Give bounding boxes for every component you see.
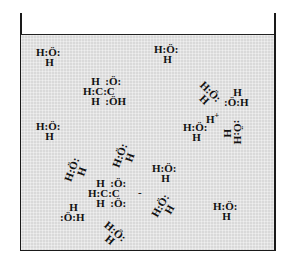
water-molecule: H:Ö: H <box>213 201 237 221</box>
water-molecule: H:Ö:H <box>224 87 248 107</box>
beaker-right-wall <box>274 13 276 250</box>
hydrogen-symbol: H <box>206 113 215 125</box>
water-molecule: H:Ö: H <box>183 122 207 142</box>
water-molecule: H:Ö: H <box>36 121 60 141</box>
water-molecule: :Ö:H H <box>223 120 243 144</box>
acetic-acid-molecule: H :Ö:H:C:C H :ÖH <box>83 76 126 106</box>
hydrogen-ion: H+ <box>206 111 219 125</box>
acetate-ion: H :Ö:H:C:C H :Ö: <box>88 178 126 208</box>
acetate-charge: - <box>138 186 142 198</box>
water-molecule: H:Ö: H <box>154 44 178 64</box>
water-molecule: H:Ö: H <box>152 163 176 183</box>
water-molecule: H:Ö:H <box>60 202 84 222</box>
hydrogen-charge: + <box>215 111 220 120</box>
water-molecule: H:Ö: H <box>36 47 60 67</box>
beaker-diagram: H:Ö: HH:Ö: HH:Ö: HH:Ö: H H:Ö:HH:Ö: H:Ö:H… <box>0 0 283 265</box>
